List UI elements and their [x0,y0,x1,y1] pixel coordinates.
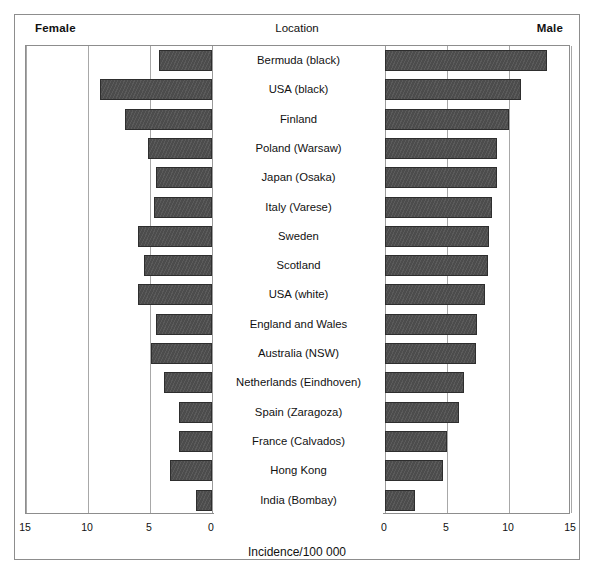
chart-row: Spain (Zaragoza) [26,398,569,427]
bar-male [385,79,521,100]
plot-area: Bermuda (black)USA (black)FinlandPoland … [25,45,570,514]
bar-male [385,431,447,452]
chart-row: India (Bombay) [26,486,569,515]
location-column-label: Location [15,22,579,34]
bar-female [100,79,212,100]
bar-male [385,167,497,188]
chart-row: USA (white) [26,280,569,309]
bar-male [385,490,415,511]
chart-header: Female Location Male [15,15,579,45]
row-label-finland: Finland [214,105,383,134]
row-label-usa-black: USA (black) [214,75,383,104]
bar-male [385,50,547,71]
tick-female-15: 15 [19,521,31,533]
chart-row: Australia (NSW) [26,339,569,368]
bar-male [385,314,477,335]
male-side-label: Male [537,22,563,34]
chart-row: Scotland [26,251,569,280]
row-label-england-and-wales: England and Wales [214,310,383,339]
chart-row: Hong Kong [26,456,569,485]
bar-female [148,138,212,159]
bar-male [385,284,485,305]
bar-male [385,109,509,130]
row-label-bermuda-black: Bermuda (black) [214,46,383,75]
row-label-spain-zaragoza: Spain (Zaragoza) [214,398,383,427]
chart-row: USA (black) [26,75,569,104]
chart-figure: Female Location Male Bermuda (black)USA … [14,14,580,560]
row-label-france-calvados: France (Calvados) [214,427,383,456]
bar-male [385,372,464,393]
chart-row: Bermuda (black) [26,46,569,75]
gridline-male-15 [571,46,572,513]
tick-male-10: 10 [502,521,514,533]
row-label-india-bombay: India (Bombay) [214,486,383,515]
chart-row: Japan (Osaka) [26,163,569,192]
bar-female [159,50,212,71]
chart-row: Netherlands (Eindhoven) [26,368,569,397]
bar-female [151,343,212,364]
bar-female [138,226,212,247]
chart-row: Finland [26,105,569,134]
tick-female-5: 5 [146,521,152,533]
bar-female [179,431,212,452]
bar-male [385,343,476,364]
bar-female [164,372,212,393]
row-label-australia-nsw: Australia (NSW) [214,339,383,368]
bar-female [170,460,212,481]
bar-female [156,167,212,188]
bar-female [156,314,212,335]
row-label-poland-warsaw: Poland (Warsaw) [214,134,383,163]
chart-row: Poland (Warsaw) [26,134,569,163]
bar-male [385,226,489,247]
bar-female [179,402,212,423]
bar-female [125,109,212,130]
bar-male [385,197,492,218]
axis-title: Incidence/100 000 [15,545,579,559]
row-label-netherlands-eindhoven: Netherlands (Eindhoven) [214,368,383,397]
row-label-hong-kong: Hong Kong [214,456,383,485]
row-label-usa-white: USA (white) [214,280,383,309]
bar-male [385,255,488,276]
chart-row: France (Calvados) [26,427,569,456]
bar-male [385,460,443,481]
row-label-sweden: Sweden [214,222,383,251]
tick-male-5: 5 [443,521,449,533]
bar-rows: Bermuda (black)USA (black)FinlandPoland … [26,46,569,513]
tick-male-0: 0 [381,521,387,533]
row-label-scotland: Scotland [214,251,383,280]
bar-female [138,284,212,305]
row-label-japan-osaka: Japan (Osaka) [214,163,383,192]
tick-female-10: 10 [81,521,93,533]
tick-female-0: 0 [208,521,214,533]
bar-female [144,255,212,276]
bar-male [385,402,459,423]
bar-female [196,490,212,511]
bar-male [385,138,497,159]
tick-male-15: 15 [564,521,576,533]
chart-row: England and Wales [26,310,569,339]
row-label-italy-varese: Italy (Varese) [214,193,383,222]
bar-female [154,197,212,218]
chart-row: Sweden [26,222,569,251]
chart-row: Italy (Varese) [26,193,569,222]
